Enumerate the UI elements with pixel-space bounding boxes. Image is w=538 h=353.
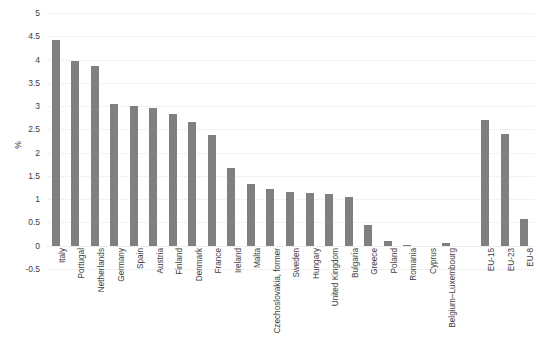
bar-chart: % 54.543.532.521.510.50-0.5 ItalyPortuga…: [0, 0, 538, 353]
x-tick-label: Hungary: [313, 248, 321, 279]
x-tick-label: France: [215, 248, 223, 273]
bars-layer: [46, 13, 534, 269]
bar: [501, 134, 509, 246]
x-tick-label: Bulgaria: [352, 248, 360, 278]
y-tick-label: 3.5: [28, 79, 40, 88]
bar: [247, 184, 255, 246]
x-tick-label: Spain: [137, 248, 145, 269]
x-tick-label: Netherlands: [98, 248, 106, 292]
bar: [403, 245, 411, 246]
y-tick-label: 3: [35, 102, 40, 111]
x-tick-label: Cyprus: [430, 248, 438, 274]
bar: [325, 194, 333, 246]
y-tick-label: 4: [35, 55, 40, 64]
bar: [306, 193, 314, 246]
x-tick-label: Sweden: [293, 248, 301, 278]
x-tick-label: Italy: [59, 248, 67, 263]
x-tick-label: Belgium–Luxembourg: [449, 248, 457, 328]
bar: [384, 241, 392, 246]
bar: [169, 114, 177, 246]
x-tick-label: Malta: [254, 248, 262, 268]
y-tick-label: 4.5: [28, 32, 40, 41]
x-tick-label: United Kingdom: [332, 248, 340, 306]
x-tick-label: Czechoslovakia, former: [274, 248, 282, 334]
x-tick-label: Ireland: [235, 248, 243, 273]
x-tick-label: Denmark: [196, 248, 204, 281]
bar: [364, 225, 372, 245]
y-tick-label: -0.5: [25, 265, 40, 274]
x-tick-label: EU-23: [508, 248, 516, 271]
bar: [266, 189, 274, 245]
bar: [71, 61, 79, 245]
x-tick-label: Portugal: [78, 248, 86, 279]
x-tick-label: Finland: [176, 248, 184, 275]
bar: [110, 104, 118, 246]
bar: [481, 120, 489, 246]
x-tick-label: EU-8: [527, 248, 535, 267]
bar: [442, 243, 450, 245]
plot-area: [46, 13, 534, 269]
y-tick-label: 1.5: [28, 172, 40, 181]
y-axis-tick-labels: 54.543.532.521.510.50-0.5: [0, 0, 46, 353]
x-tick-label: Austria: [157, 248, 165, 273]
x-tick-label: Greece: [371, 248, 379, 275]
bar: [52, 40, 60, 246]
y-tick-label: 0: [35, 241, 40, 250]
x-tick-label: Poland: [391, 248, 399, 274]
y-tick-label: 1: [35, 195, 40, 204]
y-tick-label: 5: [35, 9, 40, 18]
bar: [130, 106, 138, 246]
y-tick-label: 2.5: [28, 125, 40, 134]
x-axis-tick-labels: ItalyPortugalNetherlandsGermanySpainAust…: [46, 248, 534, 353]
x-tick-label: Germany: [118, 248, 126, 282]
bar: [91, 66, 99, 246]
y-tick-label: 0.5: [28, 218, 40, 227]
x-tick-label: Romania: [410, 248, 418, 281]
bar: [286, 192, 294, 246]
x-tick-label: EU-15: [488, 248, 496, 271]
bar: [227, 168, 235, 246]
bar: [345, 197, 353, 245]
bar: [149, 108, 157, 246]
bar: [520, 219, 528, 246]
bar: [208, 135, 216, 246]
bar: [188, 122, 196, 246]
y-tick-label: 2: [35, 148, 40, 157]
